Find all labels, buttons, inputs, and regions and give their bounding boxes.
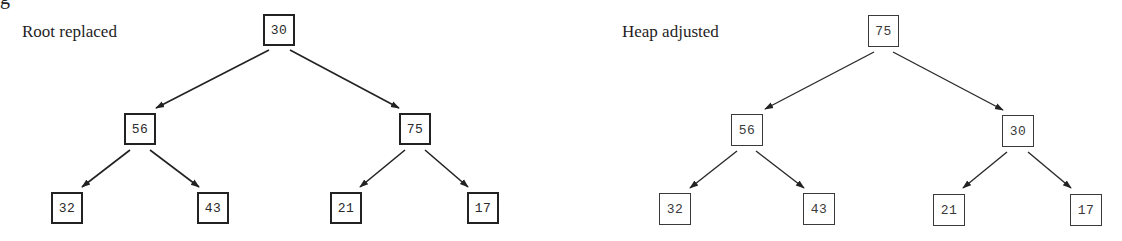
edge-56-43 — [150, 150, 199, 187]
edge-root-right — [893, 52, 1003, 110]
left-node-l: 56 — [124, 113, 156, 145]
right-node-l: 56 — [731, 114, 763, 146]
edge-root-left — [156, 50, 269, 108]
edge-30-17 — [1028, 152, 1071, 188]
edge-root-left — [765, 52, 874, 109]
edge-75-17 — [425, 150, 468, 187]
left-node-rr: 17 — [467, 192, 499, 224]
edge-56-32 — [82, 150, 130, 187]
right-node-r: 30 — [1002, 115, 1034, 147]
left-node-r: 75 — [399, 113, 431, 145]
heap-diagram: g Root replaced 30 56 75 32 4 — [0, 0, 1122, 241]
edge-root-right — [290, 50, 399, 108]
right-node-lr: 43 — [803, 193, 835, 225]
edge-56-32 — [690, 151, 737, 188]
left-node-root: 30 — [263, 14, 295, 46]
right-node-root: 75 — [868, 15, 899, 47]
caption-root-replaced: Root replaced — [22, 22, 117, 42]
edge-75-21 — [360, 150, 405, 187]
left-node-rl: 21 — [330, 192, 362, 224]
left-node-lr: 43 — [197, 192, 229, 224]
right-node-rl: 21 — [933, 194, 965, 226]
left-node-ll: 32 — [51, 192, 83, 224]
caption-heap-adjusted: Heap adjusted — [622, 22, 719, 42]
right-node-rr: 17 — [1070, 194, 1102, 226]
right-node-ll: 32 — [659, 193, 691, 225]
edge-56-43 — [756, 151, 804, 188]
edge-30-21 — [963, 152, 1007, 188]
